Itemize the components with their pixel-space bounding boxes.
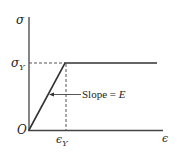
yield-strain-label: ϵY (56, 133, 68, 148)
arrowhead-icon (49, 93, 54, 97)
y-axis-label: σ (16, 13, 25, 27)
stress-strain-diagram: σ σY O ϵY ϵ Slope = E (0, 0, 177, 155)
x-axis-label: ϵ (162, 132, 168, 145)
slope-label: Slope = E (82, 88, 126, 100)
origin-label: O (17, 123, 27, 137)
yield-stress-label: σY (11, 56, 25, 72)
